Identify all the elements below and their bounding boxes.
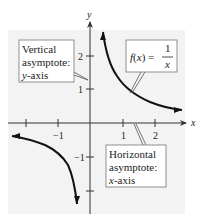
x-tick-label-2: 2 — [153, 130, 158, 141]
y-tick-label-1: 1 — [78, 84, 83, 95]
y-tick-label-2: 2 — [78, 51, 83, 62]
function-label-denominator: x — [164, 58, 170, 70]
x-axis-label: x — [190, 117, 196, 128]
vertical-callout-line3: y-axis — [21, 69, 48, 81]
vertical-callout-line1: Vertical — [22, 43, 56, 55]
vertical-callout-line2: asymptote: — [22, 56, 70, 68]
y-axis-label: y — [86, 9, 92, 20]
function-label-numerator: 1 — [165, 42, 171, 54]
horizontal-callout-line2: asymptote: — [109, 161, 157, 173]
function-label-lhs: f(x) = — [130, 51, 154, 64]
y-tick-label-neg1: −1 — [74, 152, 85, 163]
horizontal-callout-line3: x-axis — [108, 174, 135, 186]
x-tick-label-1: 1 — [121, 130, 126, 141]
graph-figure: x y −1 1 2 2 1 −1 Vertical asymptote: y-… — [0, 0, 207, 214]
x-tick-label-neg1: −1 — [53, 130, 64, 141]
horizontal-callout-line1: Horizontal — [109, 148, 156, 160]
